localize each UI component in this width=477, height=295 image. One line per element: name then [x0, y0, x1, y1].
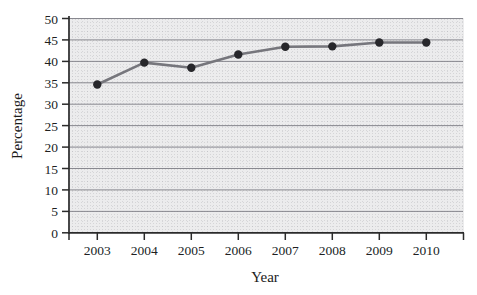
- data-point: [281, 43, 289, 51]
- x-tick-label: 2010: [413, 243, 440, 258]
- data-point: [328, 42, 336, 50]
- x-tick-label: 2008: [319, 243, 346, 258]
- x-tick-labels: 2003 2004 2005 2006 2007 2008 2009 2010: [84, 243, 440, 258]
- data-point: [140, 58, 148, 66]
- y-axis-title: Percentage: [9, 93, 25, 159]
- data-point: [187, 64, 195, 72]
- y-tick-label: 35: [45, 76, 59, 91]
- y-tick-label: 15: [45, 162, 59, 177]
- data-point: [93, 80, 101, 88]
- y-tick-label: 50: [45, 12, 59, 27]
- data-point: [422, 38, 430, 46]
- y-tick-label: 5: [51, 204, 58, 219]
- y-tick-labels: 50 45 40 35 30 25 20 15 10 5 0: [45, 12, 59, 241]
- y-tick-label: 25: [45, 119, 59, 134]
- y-tick-label: 45: [45, 33, 59, 48]
- x-axis: [69, 233, 464, 240]
- y-tick-label: 0: [51, 226, 58, 241]
- x-tick-label: 2007: [272, 243, 299, 258]
- y-tick-label: 20: [45, 140, 59, 155]
- y-tick-label: 40: [45, 54, 59, 69]
- y-tick-label: 10: [45, 183, 59, 198]
- chart-canvas: 50 45 40 35 30 25 20 15 10 5 0: [0, 0, 477, 295]
- x-tick-label: 2006: [225, 243, 252, 258]
- y-tick-label: 30: [45, 97, 59, 112]
- x-tick-label: 2005: [178, 243, 205, 258]
- data-series-percentage: [93, 38, 430, 88]
- x-tick-label: 2009: [366, 243, 393, 258]
- x-tick-label: 2003: [84, 243, 111, 258]
- y-axis: [62, 16, 69, 234]
- x-axis-title: Year: [251, 269, 279, 285]
- data-point: [234, 50, 242, 58]
- x-tick-label: 2004: [131, 243, 158, 258]
- line-chart: 50 45 40 35 30 25 20 15 10 5 0: [0, 0, 477, 295]
- series-markers: [93, 38, 430, 88]
- gridlines: [69, 19, 463, 212]
- data-point: [375, 38, 383, 46]
